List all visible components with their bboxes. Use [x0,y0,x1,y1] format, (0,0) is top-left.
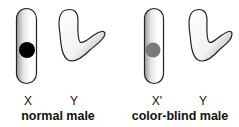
y-chromosome-colorblind [189,9,232,60]
caption-color-blind-male: color-blind male [132,110,229,123]
gene-marker-grey [146,43,161,58]
label-y: Y [70,95,78,107]
label-y: Y [199,95,207,107]
label-x-prime: X' [152,95,162,107]
label-x: X [24,95,32,107]
y-chromosome-normal [59,9,105,60]
x-chromosome-colorblind [145,9,164,84]
caption-normal-male: normal male [21,110,95,123]
gene-marker-black [19,42,35,58]
x-chromosome-normal [17,9,37,84]
